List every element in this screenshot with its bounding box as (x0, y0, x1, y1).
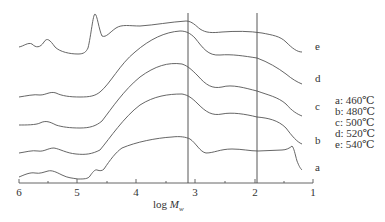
curve-label-d: d (315, 72, 321, 84)
x-axis-ticks (19, 179, 313, 183)
curve-b-480C (19, 94, 302, 154)
x-tick-label-6: 6 (16, 186, 22, 198)
x-axis-title: log Mw (153, 198, 184, 213)
curve-c-500C (19, 64, 302, 128)
curve-label-c: c (315, 100, 320, 112)
curve-e-540C (19, 14, 302, 54)
legend: a: 460℃ b: 480℃ c: 500℃ d: 520℃ e: 540℃ (335, 95, 375, 150)
x-tick-label-4: 4 (133, 186, 139, 198)
x-tick-label-3: 3 (192, 186, 198, 198)
x-tick-label-5: 5 (74, 186, 80, 198)
curve-label-e: e (315, 40, 320, 52)
curve-label-b: b (315, 134, 321, 146)
x-tick-label-1: 1 (310, 186, 316, 198)
curve-a-460C (19, 137, 302, 179)
curve-label-a: a (315, 161, 320, 173)
curve-d-520C (19, 31, 302, 97)
x-tick-label-2: 2 (252, 186, 258, 198)
legend-item-e: e: 540℃ (335, 139, 375, 150)
